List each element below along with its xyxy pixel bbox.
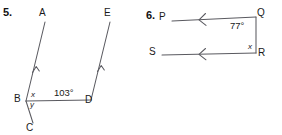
point-label-a: A [39, 8, 46, 18]
point-label-s: S [149, 47, 156, 57]
angle-label-x: x [31, 91, 35, 99]
problem-5-figure [0, 0, 141, 135]
problem-5-svg [0, 0, 141, 135]
point-label-p: P [159, 12, 166, 22]
point-label-q: Q [257, 8, 265, 18]
point-label-r: R [258, 48, 265, 58]
point-label-d: D [85, 95, 92, 105]
angle-label-103: 103° [54, 88, 74, 98]
ray-de [91, 22, 110, 100]
problem-5: 5. A E B [0, 0, 141, 135]
segment-bd [26, 100, 91, 101]
ray-ba [26, 22, 45, 101]
angle-label-x-r: x [248, 43, 252, 51]
angle-label-y: y [30, 101, 34, 109]
worksheet-page: 5. A E B [0, 0, 282, 135]
point-label-e: E [104, 8, 111, 18]
point-label-c: C [26, 123, 33, 133]
problem-6: 6. P Q S R 77° x [141, 0, 282, 135]
segment-sr [162, 53, 256, 55]
angle-label-77: 77° [230, 21, 244, 31]
point-label-b: B [14, 94, 21, 104]
